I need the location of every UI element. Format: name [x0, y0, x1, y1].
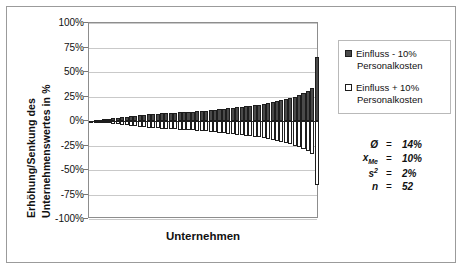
bar-series-group — [89, 23, 317, 217]
statistics-table: Ø=14%xMe=10%s2=2%n=52 — [352, 138, 422, 193]
statistic-value: 14% — [395, 138, 422, 151]
plot-area — [88, 22, 318, 218]
statistics-row: xMe=10% — [352, 151, 422, 166]
statistics-row: n=52 — [352, 180, 422, 193]
y-tick-label: 100% — [40, 17, 84, 28]
legend-entry[interactable]: Einfluss - 10%Personalkosten — [345, 48, 444, 71]
bar-negative — [315, 121, 319, 185]
statistic-value: 10% — [395, 151, 422, 166]
chart-legend: Einfluss - 10%PersonalkostenEinfluss + 1… — [338, 40, 451, 114]
statistics-row: s2=2% — [352, 166, 422, 180]
statistic-symbol: Ø — [352, 138, 383, 151]
statistic-symbol: s2 — [352, 166, 383, 180]
legend-label: Einfluss - 10%Personalkosten — [356, 48, 422, 71]
statistic-subscript: Me — [368, 158, 378, 165]
bar-positive — [315, 57, 319, 121]
statistic-value: 2% — [395, 166, 422, 180]
legend-label-line2: Personalkosten — [356, 94, 422, 106]
y-tick-label: -50% — [40, 164, 84, 175]
y-tick-label: -25% — [40, 139, 84, 150]
y-tick-label: 75% — [40, 41, 84, 52]
statistic-equals: = — [383, 151, 395, 166]
statistic-equals: = — [383, 166, 395, 180]
chart-figure: Erhöhung/Senkung des Unternehmenswertes … — [0, 0, 462, 269]
legend-label: Einfluss + 10%Personalkosten — [356, 82, 422, 105]
y-tick-label: 0% — [40, 115, 84, 126]
legend-swatch-dark — [345, 50, 352, 57]
legend-label-line1: Einfluss + 10% — [356, 82, 419, 93]
statistic-equals: = — [383, 180, 395, 193]
statistics-block: Ø=14%xMe=10%s2=2%n=52 — [352, 138, 422, 193]
statistic-value: 52 — [395, 180, 422, 193]
y-tick-label: 50% — [40, 66, 84, 77]
legend-entry[interactable]: Einfluss + 10%Personalkosten — [345, 82, 444, 105]
y-tick-label: 25% — [40, 90, 84, 101]
statistic-equals: = — [383, 138, 395, 151]
y-tick-mark — [83, 218, 88, 219]
statistic-symbol: xMe — [352, 151, 383, 166]
gridline — [89, 219, 317, 220]
statistics-row: Ø=14% — [352, 138, 422, 151]
statistic-superscript: 2 — [374, 167, 378, 174]
statistic-symbol: n — [352, 180, 383, 193]
bar-group — [315, 23, 319, 217]
legend-label-line1: Einfluss - 10% — [356, 48, 417, 59]
y-tick-label: -100% — [40, 213, 84, 224]
legend-label-line2: Personalkosten — [356, 60, 422, 72]
legend-swatch-light — [345, 84, 352, 91]
y-axis-title-line1: Erhöhung/Senkung des — [25, 98, 37, 218]
x-axis-title: Unternehmen — [88, 230, 318, 242]
y-tick-label: -75% — [40, 188, 84, 199]
